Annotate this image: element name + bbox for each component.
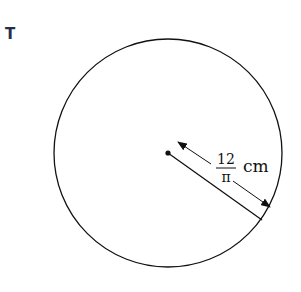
- radius-denominator: π: [221, 169, 230, 185]
- radius-numerator: 12: [217, 151, 235, 167]
- radius-unit: cm: [243, 156, 269, 176]
- dimension-arrow-upper: [178, 142, 211, 164]
- circle-diagram: 12 π cm: [0, 0, 301, 292]
